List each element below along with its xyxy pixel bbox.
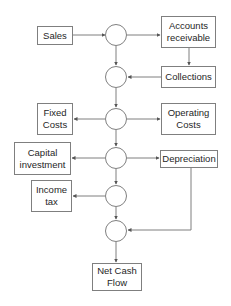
junction-3 <box>106 109 127 130</box>
depreciation-node: Depreciation <box>160 150 218 168</box>
collections-node: Collections <box>161 66 216 88</box>
junction-1 <box>106 25 127 46</box>
junction-4 <box>106 148 127 169</box>
sales-node: Sales <box>37 26 73 45</box>
net-cash-flow-node: Net Cash Flow <box>92 263 142 291</box>
income-tax-node: Income tax <box>31 180 72 212</box>
junction-5 <box>106 186 127 207</box>
fixed-costs-node: Fixed Costs <box>37 103 73 135</box>
operating-costs-node: Operating Costs <box>161 103 216 135</box>
accounts-receivable-node: Accounts receivable <box>161 16 216 48</box>
junction-6 <box>106 221 127 242</box>
junction-2 <box>106 67 127 88</box>
capital-investment-node: Capital investment <box>14 142 71 175</box>
